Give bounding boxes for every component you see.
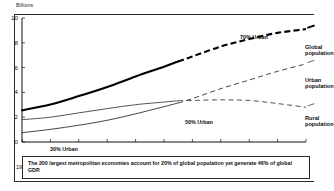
annotation-30-percent-urban: 30% Urban: [50, 146, 78, 152]
annotation-70-percent-urban: 70% Urban: [240, 34, 268, 40]
y-tick-label: 0: [6, 139, 18, 145]
y-tick-label: 10: [6, 15, 18, 21]
y-axis-unit-label: Billions: [16, 2, 33, 8]
plot-area: 10 8 6 4 2 0 1950 1960 1970 1980 1990 20…: [22, 18, 306, 142]
y-tick-label: 4: [6, 89, 18, 95]
legend-item-rural-population: Rural population: [305, 115, 334, 128]
legend-label-line2: population: [305, 50, 334, 56]
annotation-50-percent-urban: 50% Urban: [185, 119, 213, 125]
legend-item-global-population: Global population: [305, 44, 334, 57]
footnote-callout: The 200 largest metropolitan economies a…: [22, 156, 310, 179]
legend-item-urban-population: Urban population: [305, 77, 334, 90]
y-tick-label: 8: [6, 40, 18, 46]
y-tick-label: 2: [6, 114, 18, 120]
legend-label-line2: population: [305, 121, 334, 127]
legend-label-line2: population: [305, 83, 334, 89]
y-tick-label: 6: [6, 65, 18, 71]
